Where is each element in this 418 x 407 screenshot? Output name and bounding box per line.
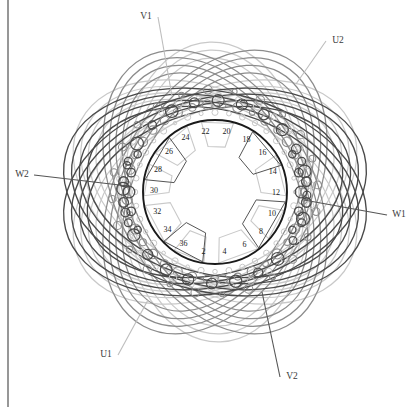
slot-number-label: 18 [242, 135, 250, 144]
coil-end-circle [212, 109, 218, 115]
terminal-label-u2: U2 [332, 35, 344, 45]
slot-number-label: 14 [269, 167, 277, 176]
slot-number-label: 22 [202, 127, 210, 136]
coil-end-circle [213, 269, 218, 274]
slot-number-label: 34 [164, 225, 172, 234]
terminal-label-u1: U1 [100, 349, 112, 359]
slot-number-label: 12 [272, 188, 280, 197]
coil-end-circle [292, 176, 296, 180]
stator-bore-circle [143, 120, 287, 264]
slot-number-label: 2 [201, 247, 205, 256]
terminal-leader-line [296, 41, 326, 84]
coil-end-circle [199, 112, 203, 116]
coil-end-circle [227, 111, 232, 116]
terminal-label-v1: V1 [140, 11, 152, 21]
slot-number-label: 24 [181, 133, 189, 142]
slot-number-label: 28 [154, 165, 162, 174]
terminal-label-w2: W2 [15, 169, 29, 179]
terminal-label-v2: V2 [286, 371, 298, 381]
slot-number-label: 10 [268, 209, 276, 218]
slot-number-label: 26 [165, 147, 173, 156]
slot-number-label: 36 [180, 239, 188, 248]
terminal-label-w1: W1 [392, 209, 406, 219]
slot-number-label: 16 [258, 148, 266, 157]
slot-number-label: 32 [153, 207, 161, 216]
slot-number-label: 4 [223, 247, 227, 256]
stator-winding-figure: 24681012141618202224262830323436 V1U2W2W… [0, 0, 418, 407]
terminal-leader-line [262, 292, 280, 377]
slot-number-label: 6 [243, 240, 247, 249]
slot-number-label: 20 [223, 127, 231, 136]
terminal-leader-line [158, 17, 172, 96]
slot-number-label: 30 [150, 186, 158, 195]
coil-end-circle [134, 203, 139, 208]
coil-end-circle [127, 207, 136, 216]
slot-number-label: 8 [259, 227, 263, 236]
slot-shape-group [144, 122, 286, 263]
